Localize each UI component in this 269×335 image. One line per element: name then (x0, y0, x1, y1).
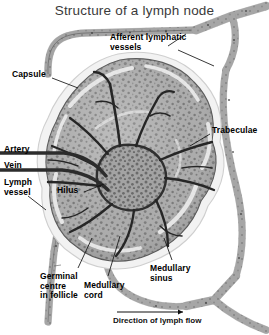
label-medullary-sinus: Medullary sinus (150, 264, 191, 283)
label-medullary-cord: Medullary cord (84, 281, 125, 300)
lymph-node-figure: Structure of a lymph node (0, 0, 269, 335)
label-germinal-centre-in-follicle: Germinal centre in follicle (40, 272, 78, 301)
label-afferent-lymphatic-vessels: Afferent lymphatic vessels (110, 33, 186, 52)
label-hilus: Hilus (57, 186, 78, 196)
label-lymph-vessel: Lymph vessel (4, 178, 32, 197)
flow-caption: Direction of lymph flow (113, 316, 201, 325)
lymph-flow-arrow (117, 309, 183, 314)
label-vein: Vein (4, 161, 22, 171)
label-capsule: Capsule (12, 70, 46, 80)
label-trabeculae: Trabeculae (212, 126, 257, 136)
label-artery: Artery (4, 145, 30, 155)
